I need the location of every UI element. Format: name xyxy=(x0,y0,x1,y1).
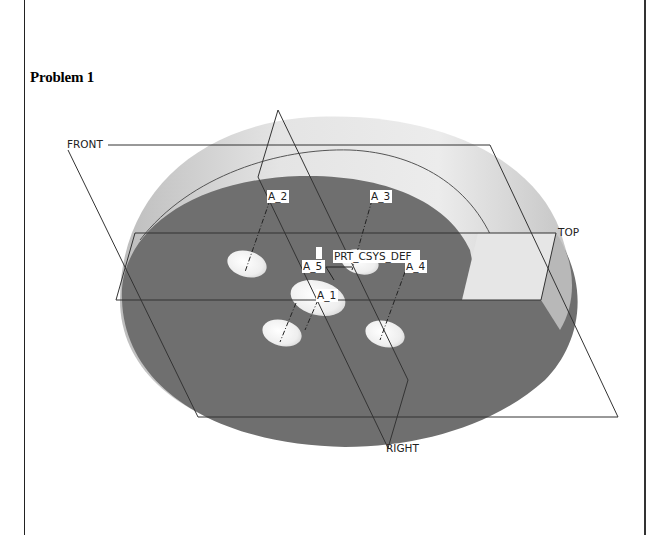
svg-text:FRONT: FRONT xyxy=(67,138,103,150)
svg-text:RIGHT: RIGHT xyxy=(386,442,419,454)
axis-label-a5: A_5 xyxy=(302,260,325,273)
axis-label-a2: A_2 xyxy=(267,190,289,203)
axis-label-a1: A_1 xyxy=(316,289,338,302)
axis-label-a3: A_3 xyxy=(370,190,392,203)
svg-text:A_5: A_5 xyxy=(303,260,322,273)
svg-text:A_1: A_1 xyxy=(317,289,336,302)
datum-plane-label-right: RIGHT xyxy=(386,442,419,454)
svg-text:PRT_CSYS_DEF: PRT_CSYS_DEF xyxy=(334,250,412,263)
svg-text:A_2: A_2 xyxy=(268,190,287,203)
datum-plane-label-front: FRONT xyxy=(67,138,103,150)
svg-text:TOP: TOP xyxy=(557,226,579,238)
datum-plane-label-top: TOP xyxy=(557,226,579,238)
svg-text:A_3: A_3 xyxy=(371,190,390,203)
cad-model-view: FRONT TOP RIGHT A_2 A_3 A_5 A_4 A_1 PRT_… xyxy=(0,0,655,535)
